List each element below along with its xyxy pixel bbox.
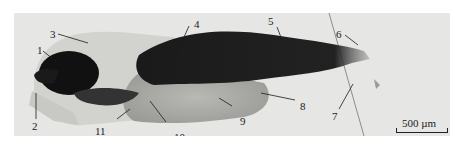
scale-bar-tick-left	[396, 128, 397, 133]
scale-bar-line	[396, 132, 448, 133]
label-1: 1	[37, 45, 43, 56]
label-7: 7	[332, 111, 338, 122]
label-6: 6	[336, 29, 342, 40]
label-3: 3	[50, 29, 56, 40]
label-4: 4	[194, 19, 200, 30]
label-5: 5	[268, 16, 274, 27]
label-2: 2	[32, 121, 38, 132]
scale-bar-label: 500 µm	[402, 117, 436, 129]
scale-bar-tick-right	[447, 128, 448, 133]
larva-micrograph: 3 1 2 4 5 11 10 9 8 6 7	[14, 13, 450, 136]
label-9: 9	[240, 116, 246, 127]
scale-bar: 500 µm	[396, 118, 448, 133]
label-11: 11	[95, 126, 106, 136]
label-10: 10	[174, 132, 185, 136]
larva-illustration	[14, 13, 450, 136]
label-8: 8	[300, 101, 306, 112]
